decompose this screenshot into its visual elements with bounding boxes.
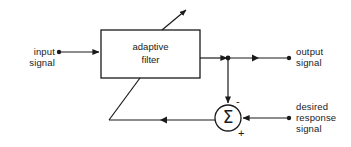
input-signal-label-line1: input: [0, 46, 55, 57]
feedback-bus-arrowhead: [160, 117, 167, 124]
output-terminal-dot: [287, 56, 291, 60]
output-signal-label-line1: output: [296, 46, 351, 57]
input-signal-label-line2: signal: [0, 57, 55, 68]
output-signal-label-line2: signal: [296, 57, 351, 68]
desired-response-label-line1: desired: [296, 101, 351, 112]
negative-sign-label: -: [236, 96, 240, 107]
adaptive-filter-label-line2: filter: [101, 53, 200, 66]
desired-response-label-line3: signal: [296, 123, 351, 134]
input-terminal-dot: [57, 50, 61, 54]
adaptive-filter-diagram: Σ - + adaptive filter input signal outpu…: [0, 0, 351, 147]
desired-terminal-dot: [287, 116, 291, 120]
adaptation-arrow-line: [162, 10, 186, 30]
sigma-symbol: Σ: [214, 109, 242, 126]
desired-response-label-line2: response: [296, 112, 351, 123]
feedback-diagonal-line: [109, 78, 140, 120]
positive-sign-label: +: [238, 128, 244, 139]
adaptive-filter-label-line1: adaptive: [101, 40, 200, 53]
output-signal-arrowhead: [252, 55, 259, 62]
